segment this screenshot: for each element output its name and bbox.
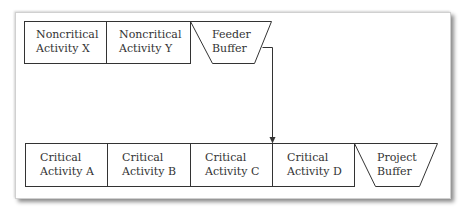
label-line: Critical (287, 151, 342, 165)
label-line: Activity X (36, 42, 98, 56)
critical-activity-d-label: Critical Activity D (287, 151, 342, 179)
label-line: Critical (205, 151, 259, 165)
label-line: Activity B (122, 165, 176, 179)
critical-activity-a-label: Critical Activity A (40, 151, 94, 179)
label-line: Critical (40, 151, 94, 165)
label-line: Activity Y (119, 42, 181, 56)
label-line: Feeder (212, 28, 251, 42)
noncritical-activity-x-label: Noncritical Activity X (36, 28, 98, 56)
feeder-connector-line (263, 48, 273, 139)
label-line: Noncritical (119, 28, 181, 42)
arrowhead-icon (270, 137, 276, 144)
critical-activity-b-label: Critical Activity B (122, 151, 176, 179)
label-line: Project (377, 151, 417, 165)
label-line: Noncritical (36, 28, 98, 42)
label-line: Buffer (212, 42, 251, 56)
label-line: Critical (122, 151, 176, 165)
label-line: Activity C (205, 165, 259, 179)
feeder-buffer-label: Feeder Buffer (212, 28, 251, 56)
label-line: Activity A (40, 165, 94, 179)
label-line: Buffer (377, 165, 417, 179)
critical-activity-c-label: Critical Activity C (205, 151, 259, 179)
label-line: Activity D (287, 165, 342, 179)
noncritical-activity-y-label: Noncritical Activity Y (119, 28, 181, 56)
project-buffer-label: Project Buffer (377, 151, 417, 179)
